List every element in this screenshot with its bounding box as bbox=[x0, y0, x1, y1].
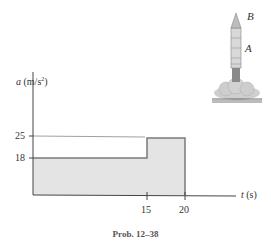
x-tick-label-20: 20 bbox=[179, 204, 189, 215]
guide-line-25 bbox=[33, 136, 145, 137]
rocket-label-a: A bbox=[245, 42, 252, 54]
y-axis-unit: (m/s bbox=[24, 76, 42, 87]
x-axis-label: t (s) bbox=[241, 189, 257, 200]
figure-caption: Prob. 12–38 bbox=[0, 229, 271, 239]
y-axis-unit-close: ) bbox=[44, 76, 47, 87]
rocket-label-b: B bbox=[247, 10, 254, 22]
y-tick-label-25: 25 bbox=[15, 130, 25, 141]
x-axis bbox=[33, 195, 236, 196]
x-tick-label-15: 15 bbox=[141, 204, 151, 215]
area-fill bbox=[33, 138, 185, 195]
rocket-icon bbox=[212, 13, 262, 103]
x-axis-variable: t bbox=[241, 189, 244, 200]
y-tick-label-18: 18 bbox=[15, 152, 25, 163]
y-axis-variable: a bbox=[16, 76, 21, 87]
acceleration-time-graph bbox=[0, 0, 271, 244]
x-axis-unit: (s) bbox=[246, 189, 257, 200]
y-axis-label: a (m/s2) bbox=[16, 76, 48, 87]
